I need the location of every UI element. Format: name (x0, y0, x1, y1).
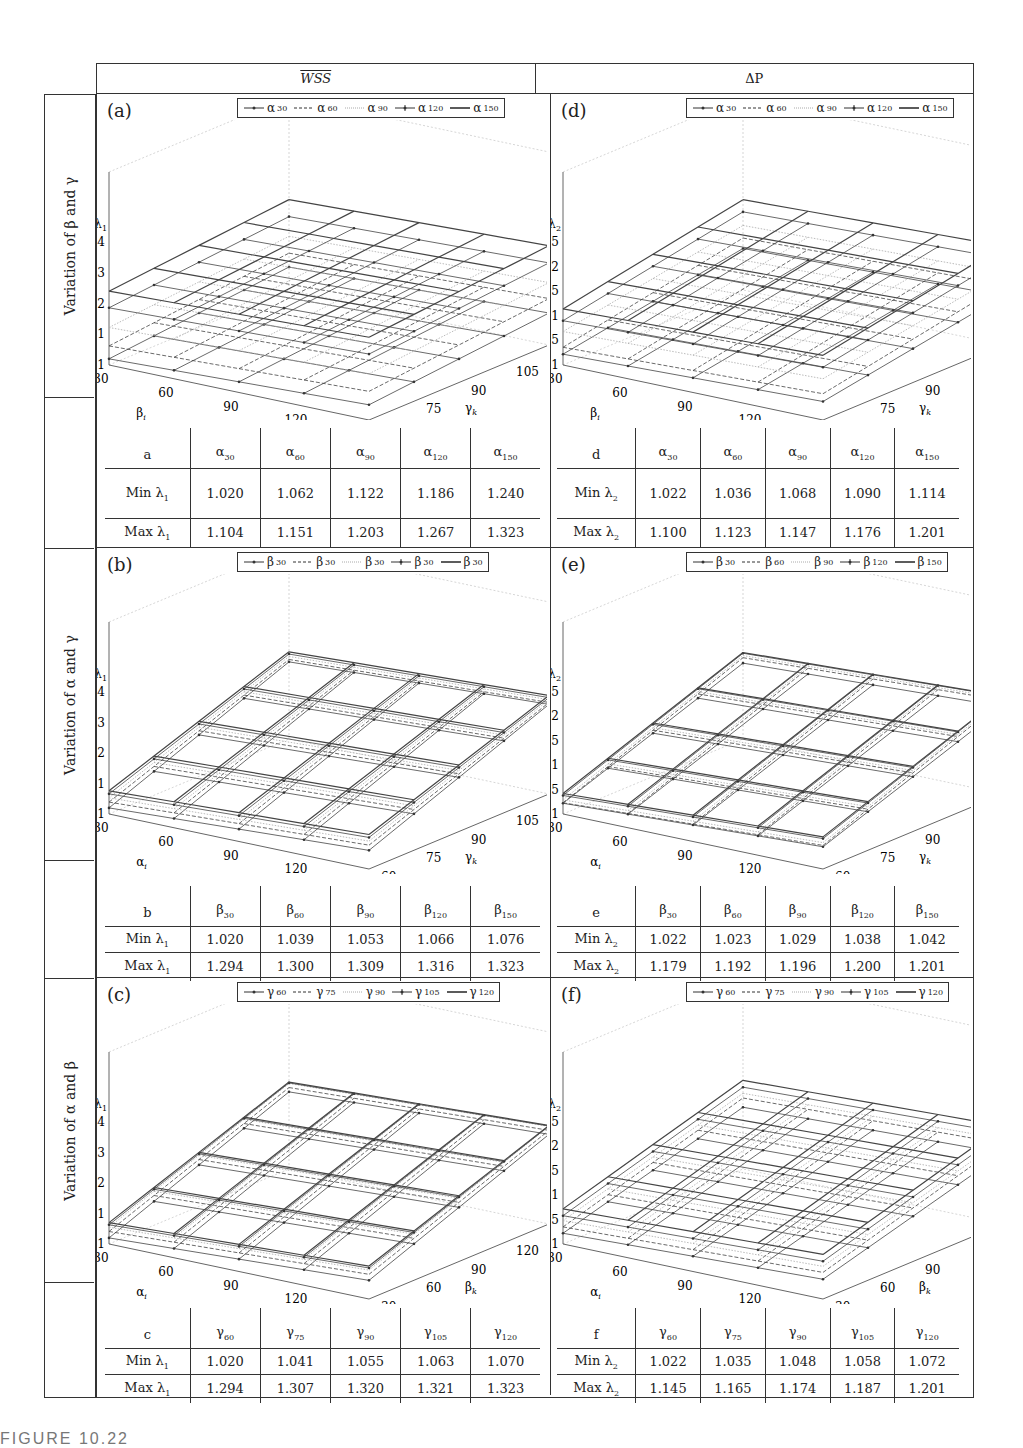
column-header-dp-label: ΔP (745, 71, 763, 86)
y-axis-label-subscript: k (472, 857, 477, 866)
z-tick-label: 1 (97, 1237, 105, 1251)
legend-line-plus-icon (394, 104, 416, 112)
legend-subscript: 120 (877, 104, 892, 113)
legend-item: α150 (449, 101, 498, 115)
header-symbol: γ (216, 1324, 224, 1339)
header-subscript: 60 (224, 1333, 234, 1342)
header-subscript: 90 (797, 453, 807, 462)
legend-line-solid-icon (894, 558, 916, 566)
x-tick-label: 30 (551, 1251, 563, 1265)
legend-symbol: α (766, 101, 774, 115)
x-tick-label: 30 (551, 372, 563, 386)
x-tick-label: 120 (739, 1292, 762, 1304)
table-cell-value: 1.022 (636, 1349, 701, 1375)
header-symbol: α (788, 444, 797, 459)
legend-subscript: 120 (928, 988, 943, 997)
y-tick-label: 105 (516, 814, 539, 828)
legend-item: γ105 (840, 985, 888, 999)
legend-line-plus-icon (391, 988, 413, 996)
table-cell-value: 1.200 (830, 953, 895, 981)
legend-symbol: γ (716, 985, 723, 999)
min-max-table: cγ60γ75γ90γ105γ120Min λ11.0201.0411.0551… (105, 1308, 540, 1403)
surface-plot-3d: 11.051.11.151.21.25λ2306090120150αi30609… (551, 1004, 971, 1304)
y-tick-label: 90 (925, 833, 940, 847)
legend-line-dash-icon (292, 988, 314, 996)
table-column-header: β120 (830, 886, 895, 927)
table-cell-value: 1.036 (700, 469, 765, 519)
z-tick-label: 1.1 (97, 327, 105, 341)
legend-subscript: 60 (276, 988, 286, 997)
svg-text:λ2: λ2 (551, 217, 561, 233)
panel-label: (f) (561, 984, 582, 1005)
row-label-text: Max λ (124, 1380, 165, 1395)
svg-text:γk: γk (919, 401, 931, 417)
table-cell-value: 1.321 (401, 1375, 471, 1403)
table-column-header: α30 (636, 428, 701, 469)
row-label-subscript: 2 (614, 533, 619, 542)
table-cell-value: 1.058 (830, 1349, 895, 1375)
table-column-header: α90 (330, 428, 400, 469)
legend-subscript: 90 (375, 988, 385, 997)
header-symbol: β (494, 902, 502, 917)
row-label: Min λ2 (557, 1349, 636, 1375)
table-cell-value: 1.022 (636, 927, 701, 953)
header-subscript: 30 (224, 911, 234, 920)
legend-item: γ75 (292, 985, 335, 999)
table-column-header: β120 (401, 886, 471, 927)
legend-symbol: β (863, 555, 870, 569)
table-cell-value: 1.114 (895, 469, 959, 519)
legend-symbol: γ (415, 985, 422, 999)
table-cell-value: 1.053 (330, 927, 400, 953)
legend-subscript: 30 (726, 104, 736, 113)
panel-a: (a)α30α60α90α120α15011.11.21.31.4λ130609… (97, 94, 551, 548)
legend-subscript: 90 (823, 558, 833, 567)
row-label: Max λ1 (105, 1375, 190, 1403)
table-cell-value: 1.068 (765, 469, 830, 519)
table-column-header: β30 (636, 886, 701, 927)
header-symbol: β (357, 902, 365, 917)
x-axis-label: α (590, 855, 598, 869)
header-symbol: α (851, 444, 860, 459)
table-cell-value: 1.022 (636, 469, 701, 519)
table-column-header: γ90 (765, 1308, 830, 1349)
surface-plot-3d: 11.051.11.151.21.25λ2306090120150αi60759… (551, 574, 971, 874)
z-tick-label: 1.4 (97, 685, 105, 699)
header-subscript: 90 (364, 1333, 374, 1342)
min-max-table: bβ30β60β90β120β150Min λ11.0201.0391.0531… (105, 886, 540, 981)
legend-symbol: γ (366, 985, 373, 999)
legend-subscript: 30 (325, 558, 335, 567)
y-tick-label: 30 (835, 1300, 850, 1304)
legend-subscript: 60 (776, 104, 786, 113)
table-cell-value: 1.323 (471, 953, 540, 981)
table-column-header: α150 (895, 428, 959, 469)
y-tick-label: 75 (880, 402, 895, 416)
row-label-text: Max λ (573, 958, 614, 973)
table-cell-value: 1.055 (330, 1349, 400, 1375)
legend-subscript: 120 (872, 558, 887, 567)
x-tick-label: 90 (223, 400, 238, 414)
row-label: Min λ2 (557, 927, 636, 953)
z-tick-label: 1.25 (551, 235, 559, 249)
table-column-header: γ105 (830, 1308, 895, 1349)
legend-subscript: 90 (378, 104, 388, 113)
legend-subscript: 120 (428, 104, 443, 113)
row-header-beta-gamma: Variation of β and γ (45, 95, 94, 398)
z-tick-label: 1.25 (551, 685, 559, 699)
z-tick-label: 1.3 (97, 1146, 105, 1160)
table-row: Max λ11.2941.3071.3201.3211.323 (105, 1375, 540, 1403)
table-cell-value: 1.020 (190, 927, 260, 953)
row-label: Max λ1 (105, 519, 190, 547)
z-tick-label: 1 (551, 1237, 559, 1251)
table-cell-value: 1.307 (260, 1375, 330, 1403)
legend-symbol: β (918, 555, 925, 569)
header-subscript: 30 (667, 911, 677, 920)
svg-text:λ1: λ1 (97, 217, 107, 233)
legend-subscript: 120 (479, 988, 494, 997)
panel-label: (d) (561, 100, 587, 121)
table-row: Min λ21.0221.0361.0681.0901.114 (557, 469, 959, 519)
table-column-header: γ105 (401, 1308, 471, 1349)
header-subscript: 120 (859, 453, 874, 462)
table-cell-value: 1.196 (765, 953, 830, 981)
legend-line-dot-icon (692, 988, 714, 996)
table-cell-value: 1.323 (471, 1375, 540, 1403)
